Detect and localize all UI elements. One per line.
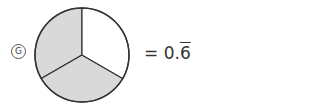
equation-prefix: = 0.	[144, 43, 180, 63]
repeating-digit: 6	[180, 43, 191, 63]
equation-text: = 0.6	[144, 43, 191, 63]
